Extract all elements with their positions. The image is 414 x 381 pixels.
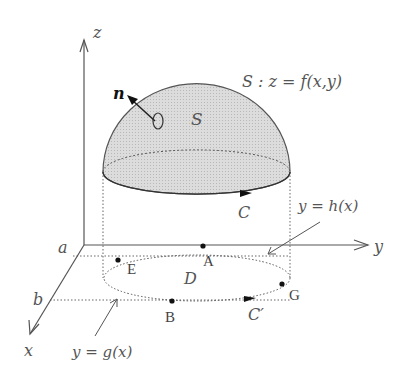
y-axis-label: y — [373, 237, 384, 256]
upper-curve-label: y = h(x) — [297, 197, 359, 215]
points — [115, 243, 284, 303]
point-a — [200, 243, 205, 248]
point-b — [169, 298, 174, 303]
boundary-c-label: C — [238, 203, 250, 222]
point-g — [279, 281, 284, 286]
point-e-label: E — [127, 261, 136, 277]
lower-curve-label: y = g(x) — [71, 343, 132, 361]
region-label: D — [183, 269, 197, 288]
surface-label: S — [191, 109, 203, 129]
point-a-label: A — [203, 253, 214, 269]
curve-pointers — [95, 222, 320, 336]
normal-label: n — [113, 84, 125, 103]
boundary-c-prime-label: C′ — [248, 305, 264, 324]
surface-equation: S : z = f(x,y) — [242, 72, 342, 91]
stokes-theorem-diagram: z y x a b n S S : z = f(x,y) C y = h(x) … — [0, 0, 414, 381]
a-label: a — [58, 238, 68, 257]
point-b-label: B — [165, 309, 175, 325]
point-e — [115, 257, 120, 262]
z-axis-label: z — [92, 23, 102, 42]
point-g-label: G — [289, 287, 300, 303]
x-axis-label: x — [24, 341, 33, 360]
b-label: b — [33, 290, 43, 309]
